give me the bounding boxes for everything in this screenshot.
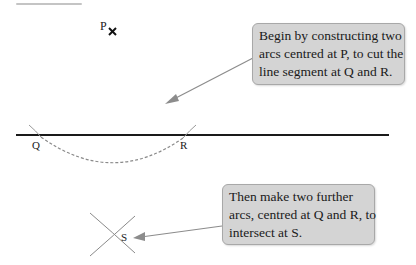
point-p-cross-icon [109,28,116,35]
label-q: Q [32,140,40,151]
callout-2-line-2: arcs, centred at Q and R, to [229,206,368,224]
arc-from-q-at-s [90,213,135,253]
label-r: R [180,140,187,151]
callout-step-1: Begin by constructing two arcs centred a… [252,23,405,85]
callout-step-2: Then make two further arcs, centred at Q… [222,184,375,245]
arrow-callout-1 [165,58,253,104]
arc-from-r-at-s [90,216,135,256]
label-s: S [121,232,127,243]
arc-pq-dashed [41,137,183,163]
arrow-callout-2 [133,226,222,241]
callout-1-line-2: arcs centred at P, to cut the [259,45,398,63]
callout-1-line-3: line segment at Q and R. [259,63,398,81]
label-p: P [100,20,107,32]
arc-r-upper [183,125,196,138]
callout-1-line-1: Begin by constructing two [259,27,398,45]
callout-2-line-3: intersect at S. [229,224,368,242]
callout-2-line-1: Then make two further [229,188,368,206]
